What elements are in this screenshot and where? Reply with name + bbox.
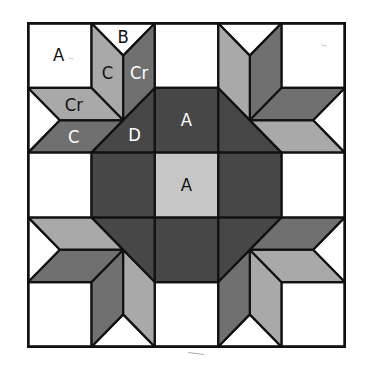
- quilt-block-diagram: ABCCrCrCDAA: [27, 22, 346, 348]
- top-middle-white-square: [155, 23, 218, 88]
- piece-label-a: A: [181, 111, 193, 130]
- piece-label-c: C: [102, 64, 113, 83]
- piece-label-b: B: [118, 28, 129, 47]
- stray-mark: [188, 352, 204, 355]
- piece-label-d: D: [128, 126, 141, 145]
- octagon-square-a-bottom: [155, 217, 218, 282]
- bottom-middle-white-square: [155, 282, 218, 347]
- right-middle-white-square: [281, 153, 344, 218]
- bottom-right-corner-square-a: [281, 282, 344, 347]
- piece-label-cr: Cr: [130, 64, 148, 83]
- bottom-left-corner-square-a: [28, 282, 91, 347]
- left-middle-white-square: [28, 153, 91, 218]
- octagon-square-a-right: [218, 153, 281, 218]
- octagon-square-a-left: [92, 153, 155, 218]
- piece-label-a: A: [181, 175, 193, 194]
- piece-label-c: C: [68, 128, 79, 147]
- top-right-corner-square-a: [281, 23, 344, 88]
- piece-label-a: A: [53, 46, 65, 65]
- quilt-svg: ABCCrCrCDAA: [27, 22, 346, 348]
- piece-label-cr: Cr: [65, 96, 83, 115]
